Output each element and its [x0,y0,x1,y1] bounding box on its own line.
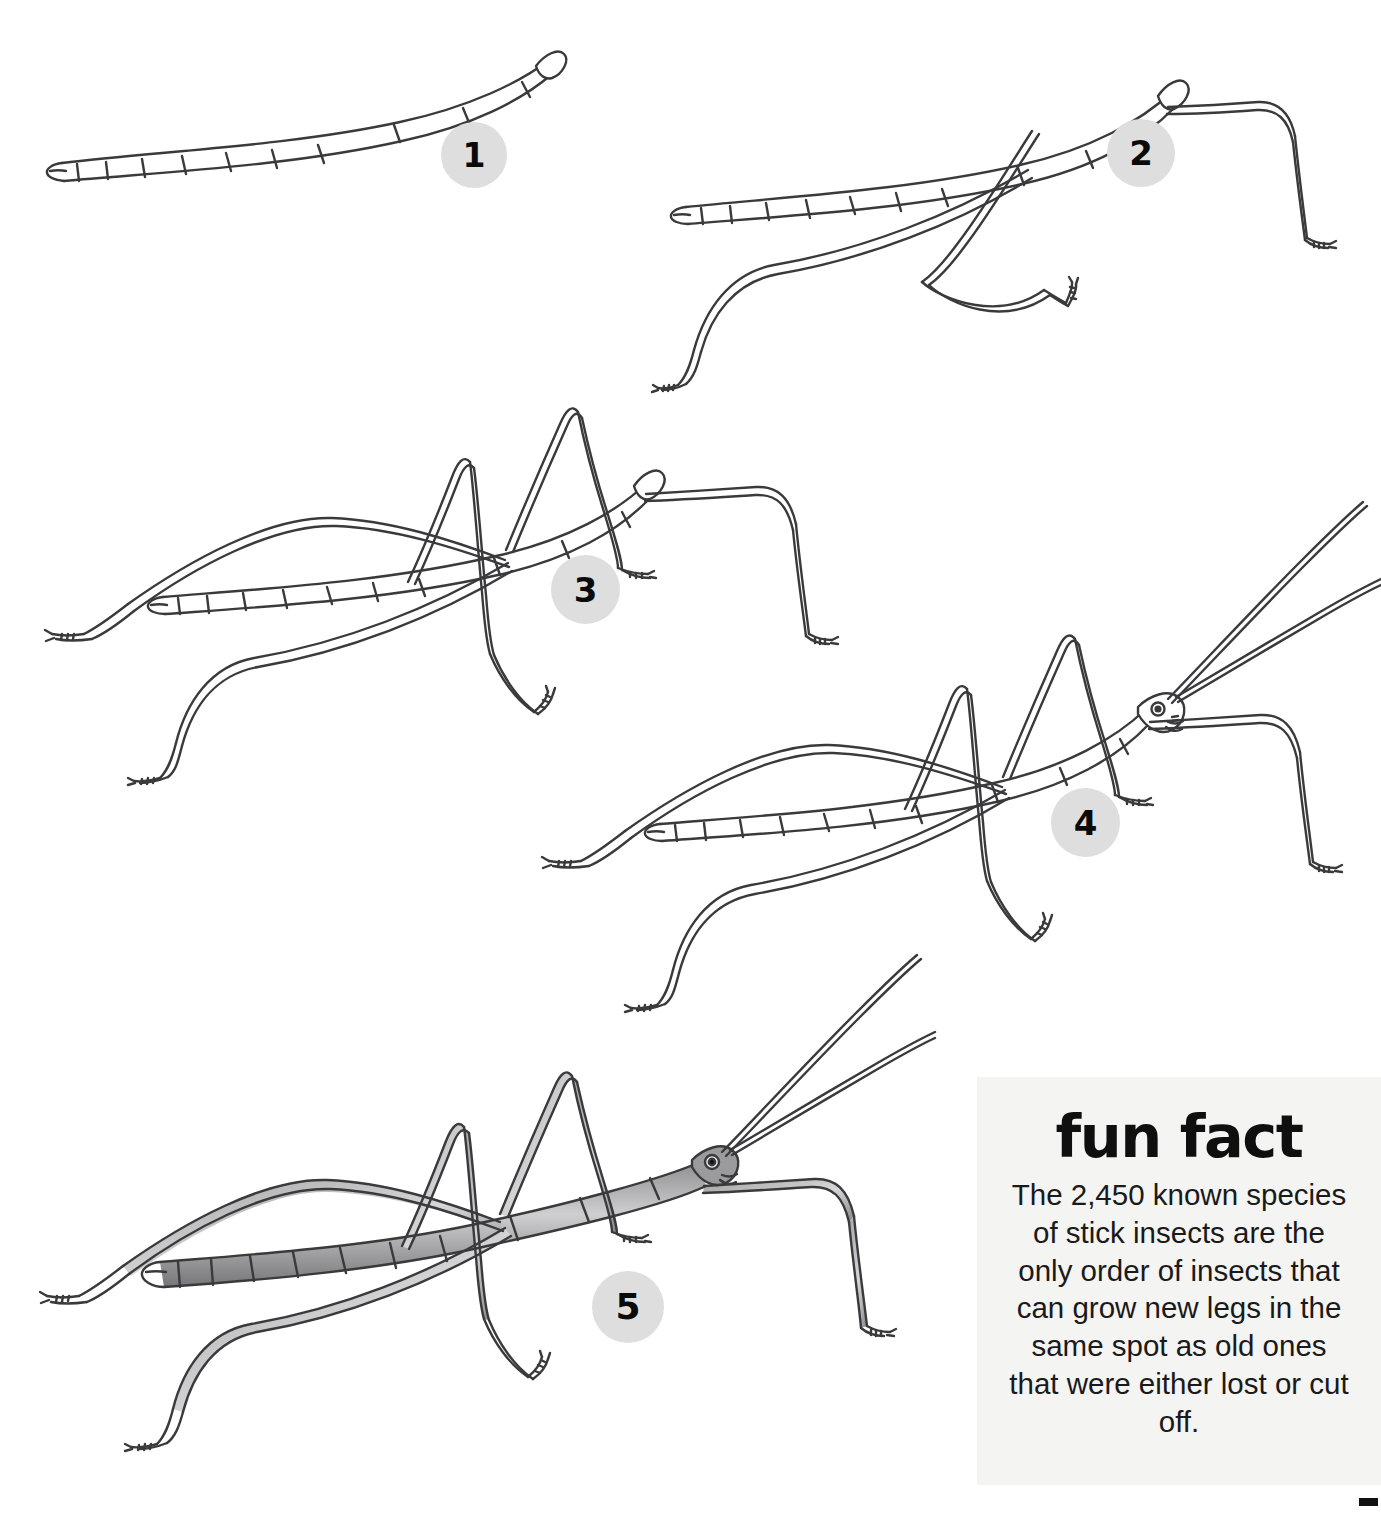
step-badge-3[interactable]: 3 [551,555,620,624]
step-badge-5[interactable]: 5 [592,1271,664,1343]
fun-fact-box: fun fact The 2,450 known species of stic… [977,1077,1381,1485]
step-badge-4[interactable]: 4 [1051,788,1120,857]
fun-fact-title: fun fact [999,1107,1359,1166]
fun-fact-body: The 2,450 known species of stick insects… [999,1176,1359,1440]
corner-crop-mark [1359,1498,1378,1506]
step-badge-1[interactable]: 1 [441,122,507,188]
drawing-tutorial-page: 1 2 3 4 5 fun fact The 2,450 known speci… [0,0,1381,1514]
step-badge-2[interactable]: 2 [1107,119,1175,187]
